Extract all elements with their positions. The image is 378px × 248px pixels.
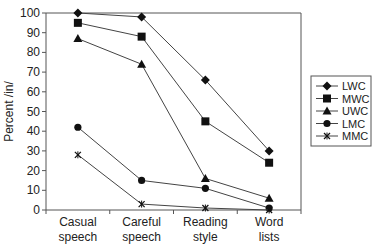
series-line (78, 23, 269, 163)
legend-label: LMC (342, 118, 365, 130)
square-marker-icon (138, 33, 146, 41)
series-line (78, 13, 269, 151)
triangle-marker-icon (73, 34, 82, 42)
y-tick-label: 60 (27, 85, 41, 99)
y-tick-label: 40 (27, 124, 41, 138)
series-mmc (75, 151, 272, 213)
x-category-label: speech (122, 230, 161, 244)
series-lwc (73, 9, 273, 156)
series-mwc (74, 19, 273, 167)
series-line (78, 155, 269, 210)
x-category-label: lists (259, 230, 280, 244)
x-category-label: style (193, 230, 218, 244)
x-category-label: Word (255, 215, 283, 229)
y-tick-label: 50 (27, 105, 41, 119)
legend-label: MMC (342, 130, 368, 142)
circle-marker-icon (202, 185, 209, 192)
x-category-label: Casual (59, 215, 96, 229)
y-axis-label: Percent /in/ (2, 80, 16, 141)
y-tick-label: 10 (27, 183, 41, 197)
triangle-marker-icon (201, 174, 210, 182)
legend-label: LWC (342, 80, 366, 92)
legend-label: MWC (342, 93, 370, 105)
chart-axes: 0102030405060708090100CasualspeechCarefu… (2, 6, 301, 244)
series-line (78, 127, 269, 208)
x-category-label: Careful (122, 215, 161, 229)
circle-marker-icon (138, 177, 145, 184)
legend-label: UWC (342, 105, 368, 117)
y-tick-label: 20 (27, 164, 41, 178)
triangle-marker-icon (137, 60, 146, 68)
star-marker-icon (75, 151, 81, 158)
square-marker-icon (74, 19, 82, 27)
y-tick-label: 30 (27, 144, 41, 158)
x-category-label: Reading (183, 215, 228, 229)
y-tick-label: 80 (27, 45, 41, 59)
y-tick-label: 0 (33, 203, 40, 217)
x-category-label: speech (59, 230, 98, 244)
circle-marker-icon (74, 124, 81, 131)
series-uwc (73, 34, 273, 202)
y-tick-label: 90 (27, 26, 41, 40)
square-marker-icon (323, 95, 331, 103)
chart-legend: LWCMWCUWCLMCMMC (311, 76, 371, 146)
circle-marker-icon (323, 120, 330, 127)
chart-series (73, 9, 273, 214)
y-tick-label: 70 (27, 65, 41, 79)
line-chart: 0102030405060708090100CasualspeechCarefu… (0, 0, 378, 248)
square-marker-icon (201, 117, 209, 125)
square-marker-icon (265, 159, 273, 167)
diamond-marker-icon (73, 9, 82, 18)
series-lmc (74, 124, 272, 212)
y-tick-label: 100 (20, 6, 40, 20)
